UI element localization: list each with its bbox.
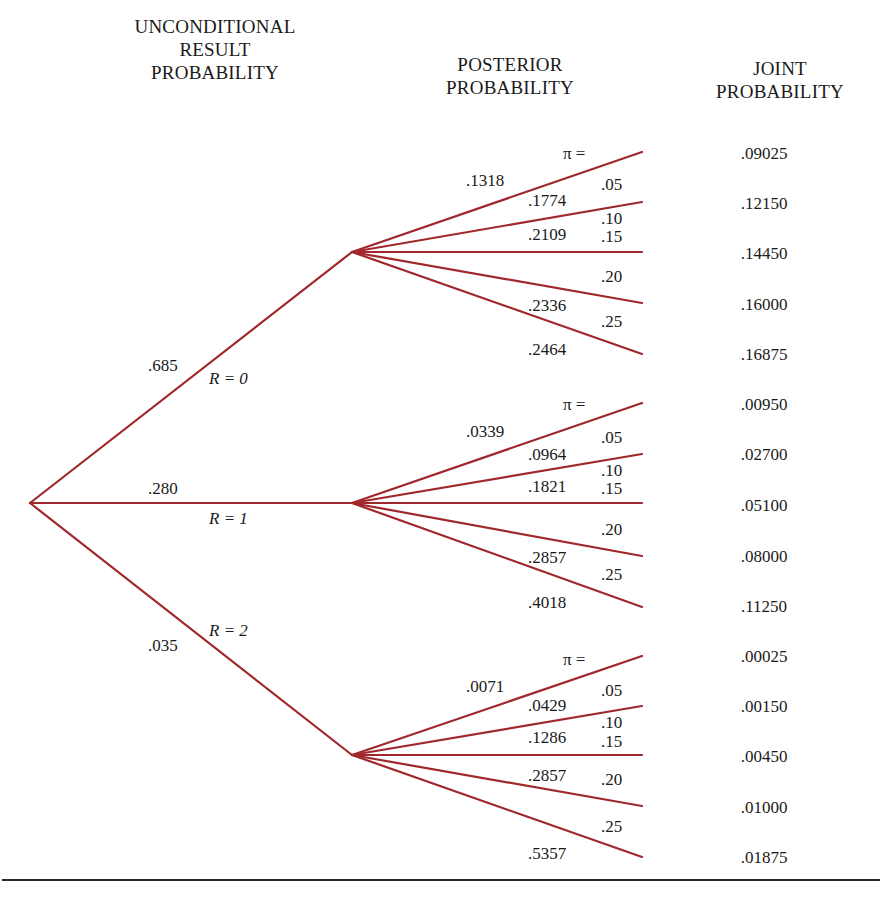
joint-prob: .16875	[714, 346, 814, 364]
posterior-prob: .0339	[466, 423, 504, 441]
result-label-r1: R = 1	[209, 510, 248, 528]
posterior-prob: .2109	[528, 226, 566, 244]
joint-prob: .00150	[714, 698, 814, 716]
pi-value: .20	[601, 521, 622, 539]
joint-prob: .02700	[714, 446, 814, 464]
joint-prob: .01875	[714, 849, 814, 867]
posterior-prob: .1318	[466, 172, 504, 190]
pi-value: .05	[601, 176, 622, 194]
posterior-prob: .2464	[528, 341, 566, 359]
unconditional-prob-r2: .035	[148, 637, 178, 655]
joint-prob: .11250	[714, 598, 814, 616]
joint-prob: .09025	[714, 145, 814, 163]
pi-value: .25	[601, 566, 622, 584]
branch-r2	[30, 503, 352, 755]
pi-label: π =	[563, 651, 585, 669]
posterior-prob: .1286	[528, 729, 566, 747]
pi-value: .10	[601, 210, 622, 228]
posterior-prob: .4018	[528, 594, 566, 612]
posterior-prob: .2857	[528, 767, 566, 785]
joint-prob: .16000	[714, 296, 814, 314]
result-label-r2: R = 2	[209, 622, 248, 640]
pi-value: .15	[601, 228, 622, 246]
posterior-prob: .2857	[528, 549, 566, 567]
posterior-prob: .1821	[528, 478, 566, 496]
pi-label: π =	[563, 145, 585, 163]
bottom-rule	[2, 879, 880, 881]
joint-prob: .01000	[714, 799, 814, 817]
pi-value: .25	[601, 818, 622, 836]
pi-value: .15	[601, 480, 622, 498]
posterior-prob: .0071	[466, 678, 504, 696]
joint-prob: .12150	[714, 195, 814, 213]
joint-prob: .05100	[714, 497, 814, 515]
pi-value: .25	[601, 313, 622, 331]
pi-value: .20	[601, 771, 622, 789]
pi-label: π =	[563, 396, 585, 414]
posterior-prob: .1774	[528, 192, 566, 210]
joint-prob: .08000	[714, 548, 814, 566]
posterior-prob: .5357	[528, 845, 566, 863]
joint-prob: .14450	[714, 245, 814, 263]
posterior-prob: .2336	[528, 297, 566, 315]
pi-value: .05	[601, 682, 622, 700]
posterior-prob: .0964	[528, 446, 566, 464]
joint-prob: .00450	[714, 748, 814, 766]
pi-value: .05	[601, 429, 622, 447]
result-label-r0: R = 0	[209, 370, 248, 388]
joint-prob: .00950	[714, 396, 814, 414]
unconditional-prob-r0: .685	[148, 357, 178, 375]
posterior-prob: .0429	[528, 697, 566, 715]
branch-r0	[30, 252, 352, 503]
pi-value: .15	[601, 733, 622, 751]
pi-value: .10	[601, 714, 622, 732]
unconditional-prob-r1: .280	[148, 480, 178, 498]
joint-prob: .00025	[714, 648, 814, 666]
pi-value: .20	[601, 268, 622, 286]
pi-value: .10	[601, 462, 622, 480]
